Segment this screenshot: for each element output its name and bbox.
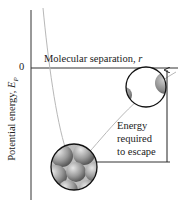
annotation-line-2: required [117,132,177,145]
annotation-line-1: Energy [117,119,177,132]
separated-molecules-icon [116,67,177,107]
potential-energy-diagram: Potential energy, EP 0 Molecular separat… [0,0,181,204]
y-axis-label: Potential energy, EP [6,64,20,174]
annotation-line-3: to escape [117,145,177,158]
zero-tick-label: 0 [19,61,24,72]
escape-energy-annotation: Energy required to escape [117,119,177,158]
diagram-graphics [0,0,181,204]
bound-molecules-icon [45,143,105,200]
x-axis-label: Molecular separation, r [44,53,142,64]
